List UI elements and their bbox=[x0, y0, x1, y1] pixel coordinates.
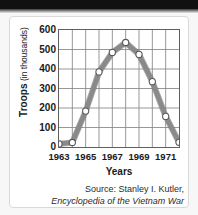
data-point-marker bbox=[136, 51, 142, 57]
data-point-marker bbox=[96, 69, 102, 75]
figure-card: Troops (in thousands) 600500400300200100… bbox=[9, 16, 189, 208]
data-point-marker bbox=[59, 141, 62, 147]
source-note: Source: Stanley I. Kutler, Encyclopedia … bbox=[16, 183, 184, 207]
y-tick-label: 500 bbox=[26, 45, 56, 55]
plot-svg bbox=[59, 30, 179, 147]
data-point-marker bbox=[149, 79, 155, 85]
y-tick-label: 100 bbox=[26, 123, 56, 133]
x-axis-title: Years bbox=[58, 166, 180, 177]
data-point-marker bbox=[176, 139, 179, 145]
x-tick-label: 1967 bbox=[102, 151, 123, 163]
y-axis-tick-labels: 6005004003002001000 bbox=[26, 29, 56, 148]
x-axis-tick-labels: 19631965196719691971 bbox=[58, 151, 180, 164]
x-tick-label: 1965 bbox=[75, 151, 96, 163]
y-tick-label: 600 bbox=[26, 25, 56, 35]
source-line-1: Source: Stanley I. Kutler, bbox=[16, 183, 184, 195]
top-band-fade bbox=[0, 9, 198, 13]
data-point-marker bbox=[69, 139, 75, 145]
data-line bbox=[59, 42, 179, 143]
y-tick-label: 400 bbox=[26, 64, 56, 74]
figure-page: Troops (in thousands) 600500400300200100… bbox=[0, 0, 198, 215]
plot-area bbox=[58, 29, 180, 148]
y-tick-label: 200 bbox=[26, 103, 56, 113]
data-point-marker bbox=[163, 113, 169, 119]
source-line-2: Encyclopedia of the Vietnam War bbox=[16, 195, 184, 207]
x-tick-label: 1969 bbox=[128, 151, 149, 163]
troop-levels-line-chart: Troops (in thousands) 600500400300200100… bbox=[10, 17, 190, 209]
data-point-marker bbox=[83, 108, 89, 114]
x-tick-label: 1963 bbox=[48, 151, 69, 163]
x-tick-label: 1971 bbox=[155, 151, 176, 163]
data-point-marker bbox=[123, 39, 129, 45]
y-tick-label: 300 bbox=[26, 84, 56, 94]
data-point-marker bbox=[109, 49, 115, 55]
